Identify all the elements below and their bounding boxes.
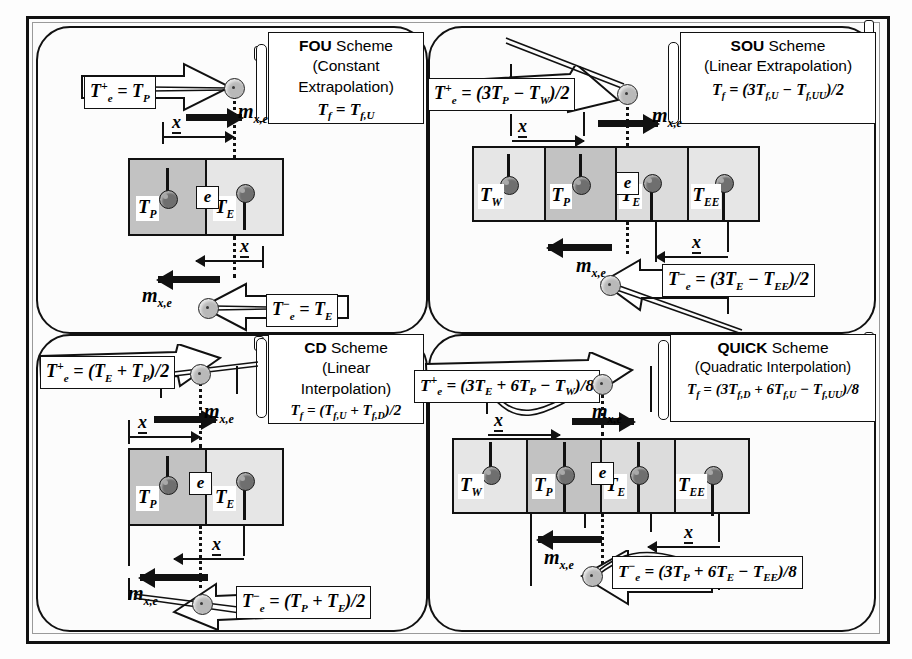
- scheme-subtitle-1-quick: (Quadratic Interpolation): [677, 358, 869, 377]
- cell-sou-W: TW: [474, 148, 546, 220]
- pointer-ball-quick-upper: [592, 374, 613, 395]
- title-line-1-quick: QUICK Scheme: [677, 338, 869, 358]
- face-marker-sou: e: [616, 172, 639, 195]
- tick-quick-lower-2: [650, 514, 652, 532]
- node-dot-sou-P: [572, 176, 591, 195]
- scheme-subtitle-1-cd: (Linear: [275, 358, 417, 378]
- tf-formula-fou: Tf = Tf,U: [275, 99, 417, 123]
- node-label-cd-E: TE: [213, 486, 236, 511]
- x-label-cd-upper: x: [138, 412, 147, 433]
- node-label-sou-EE: TEE: [691, 184, 722, 209]
- node-dot-fou-E: [236, 184, 255, 203]
- pointer-ball-sou-lower: [600, 275, 621, 296]
- node-label-quick-P: TP: [532, 474, 555, 499]
- title-line-1: FOU Scheme: [275, 36, 417, 56]
- node-label-fou-P: TP: [136, 196, 159, 221]
- tick-quick-lower-3: [718, 514, 720, 542]
- face-line-sou-upper: [626, 100, 629, 146]
- scheme-subtitle-2-fou: Extrapolation): [275, 77, 417, 97]
- scheme-name-fou: FOU: [299, 37, 332, 54]
- tf-formula-quick: Tf = (3Tf,D + 6Tf,U − Tf,UU)/8: [677, 380, 869, 401]
- pointer-ball-sou-upper: [617, 84, 638, 105]
- x-measure-cd-lower: [174, 552, 244, 566]
- title-line-1-sou: SOU Scheme: [687, 36, 869, 56]
- cell-quick-EE: TEE: [676, 440, 748, 512]
- cell-quick-W: TW: [454, 440, 528, 512]
- scheme-name-sou: SOU: [731, 37, 765, 54]
- title-card-sou: SOU Scheme (Linear Extrapolation) Tf = (…: [680, 32, 876, 124]
- pointer-ball-cd-upper: [190, 364, 211, 385]
- node-dot-cd-E: [236, 472, 255, 491]
- pointer-ball-cd-lower: [192, 594, 213, 615]
- scheme-word-cd: Scheme: [331, 339, 388, 356]
- title-card-quick: QUICK Scheme (Quadratic Interpolation) T…: [670, 334, 876, 422]
- tf-formula-sou: Tf = (3Tf,U − Tf,UU)/2: [687, 79, 869, 102]
- face-line-cd-lower: [199, 526, 202, 588]
- pointer-ball-fou-upper: [224, 78, 245, 99]
- scheme-subtitle-1-fou: (Constant: [275, 56, 417, 76]
- face-marker-cd: e: [189, 472, 212, 495]
- face-marker-fou: e: [196, 186, 219, 209]
- node-dot-cd-P: [159, 476, 178, 495]
- x-label-fou-upper: x: [172, 112, 181, 133]
- connector-fou-lower: [214, 302, 270, 314]
- node-label-sou-P: TP: [550, 184, 573, 209]
- scheme-subtitle-2-cd: Interpolation): [275, 379, 417, 399]
- cell-sou-P: TP: [546, 148, 618, 220]
- connector-fou-upper: [150, 82, 230, 96]
- formula-quick-lower: T−e = (3TP + 6TE − TEE)/8: [612, 556, 803, 589]
- formula-fou-upper: T+e = TP: [84, 76, 156, 109]
- x-label-sou-lower: x: [692, 232, 701, 253]
- scheme-subtitle-1-sou: (Linear Extrapolation): [687, 56, 869, 76]
- title-card-cd: CD Scheme (Linear Interpolation) Tf = (T…: [268, 334, 424, 424]
- node-label-quick-W: TW: [458, 474, 484, 499]
- scheme-word-fou: Scheme: [336, 37, 393, 54]
- formula-sou-lower: T−e = (3TE − TEE)/2: [662, 264, 815, 297]
- flux-label-fou-lower: mx,e: [142, 284, 172, 311]
- tick-cd-lower-1: [128, 526, 130, 566]
- title-line-1-cd: CD Scheme: [275, 338, 417, 358]
- tick-quick-lower-5: [530, 514, 532, 586]
- face-marker-quick: e: [591, 462, 614, 485]
- tick-sou-upper-2: [510, 114, 512, 136]
- face-line-sou-lower: [626, 222, 629, 254]
- cell-sou-EE: TEE: [689, 148, 759, 220]
- formula-sou-upper: T+e = (3TP − TW)/2: [428, 78, 575, 111]
- node-label-sou-W: TW: [478, 184, 504, 209]
- figure-root: FOU Scheme (Constant Extrapolation) Tf =…: [0, 0, 912, 659]
- node-dot-sou-E: [643, 174, 662, 193]
- formula-quick-upper: T+e = (3TE + 6TP − TW)/8: [414, 370, 600, 403]
- node-dot-quick-E: [630, 466, 649, 485]
- node-dot-fou-P: [159, 190, 178, 209]
- x-label-sou-upper: x: [518, 116, 527, 137]
- tick-quick-lower-1: [584, 514, 586, 528]
- node-label-quick-EE: TEE: [676, 474, 707, 499]
- tf-formula-cd: Tf = (Tf,U + Tf,D)/2: [275, 401, 417, 422]
- formula-cd-lower: T−e = (TP + TE)/2: [236, 586, 371, 619]
- face-line-cd-upper: [199, 376, 202, 448]
- scheme-name-cd: CD: [304, 339, 326, 356]
- cell-cd-E: TE: [207, 450, 282, 524]
- node-label-cd-P: TP: [136, 486, 159, 511]
- face-line-fou-lower: [233, 236, 236, 278]
- node-dot-quick-P: [556, 466, 575, 485]
- pointer-ball-fou-lower: [198, 298, 219, 319]
- node-dot-quick-W: [482, 466, 501, 485]
- title-card-fou: FOU Scheme (Constant Extrapolation) Tf =…: [268, 32, 424, 124]
- scheme-word-quick: Scheme: [772, 339, 829, 356]
- x-label-fou-lower: x: [240, 236, 249, 257]
- scheme-name-quick: QUICK: [717, 339, 767, 356]
- scheme-word-sou: Scheme: [769, 37, 826, 54]
- flux-label-fou-upper: mx,e: [238, 100, 268, 127]
- x-measure-fou-lower: [196, 254, 264, 268]
- face-line-fou-upper: [233, 96, 236, 158]
- x-label-cd-lower: x: [212, 534, 221, 555]
- formula-cd-upper: T+e = (TE + TP)/2: [40, 356, 175, 389]
- tick-quick-upper-2: [650, 366, 652, 412]
- title-pin-quick: [658, 340, 669, 420]
- formula-fou-lower: T−e = TE: [266, 294, 338, 327]
- flux-label-quick-lower: mx,e: [544, 546, 574, 573]
- pointer-ball-quick-lower: [582, 566, 603, 587]
- tick-sou-lower-2: [727, 222, 729, 252]
- flux-label-cd-upper: mx,e: [204, 400, 234, 427]
